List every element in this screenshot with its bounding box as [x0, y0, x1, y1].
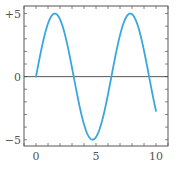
y-tick-label: −5	[5, 134, 21, 147]
tick-marks	[24, 6, 168, 146]
y-tick-labels: +5 0 −5	[5, 8, 21, 147]
y-tick-label: 0	[14, 71, 21, 84]
x-tick-label: 10	[149, 150, 163, 163]
y-tick-label: +5	[5, 8, 21, 21]
x-tick-label: 5	[93, 150, 100, 163]
sine-chart: 0 5 10 +5 0 −5	[0, 0, 179, 172]
x-tick-labels: 0 5 10	[33, 150, 164, 163]
x-tick-label: 0	[33, 150, 40, 163]
plot-frame	[24, 6, 168, 146]
